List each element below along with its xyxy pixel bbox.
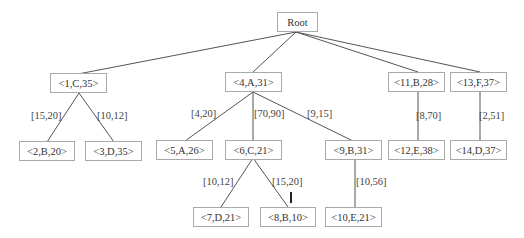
node-label: <1,C,35>	[59, 78, 99, 89]
edge-label-6-8: [15,20]	[272, 176, 303, 188]
tree-node-7: <7,D,21>	[193, 207, 249, 227]
node-label: <2,B,20>	[27, 146, 67, 157]
node-label: <10,E,21>	[331, 212, 376, 223]
tree-node-3: <3,D,35>	[85, 141, 142, 161]
tree-node-root: Root	[277, 12, 318, 32]
tree-node-9: <9,B,31>	[325, 140, 382, 160]
edge-label-4-5: [4,20]	[191, 108, 216, 120]
tree-node-2: <2,B,20>	[19, 141, 75, 161]
tree-node-5: <5,A,26>	[156, 140, 213, 160]
tree-node-12: <12,E,38>	[388, 140, 445, 160]
tree-node-10: <10,E,21>	[325, 207, 382, 227]
edge-label-1-2: [15,20]	[31, 110, 62, 122]
node-label: <11,B,28>	[394, 77, 439, 88]
node-label: <6,C,21>	[234, 145, 274, 156]
node-label: Root	[287, 17, 307, 28]
tree-node-8: <8,B,10>	[260, 207, 316, 227]
edge-label-11-12: [8,70]	[416, 110, 441, 122]
edge-label-13-14: [2,51]	[479, 110, 504, 122]
node-label: <5,A,26>	[164, 145, 204, 156]
node-label: <8,B,10>	[268, 212, 308, 223]
tree-node-14: <14,D,37>	[450, 140, 507, 160]
node-label: <3,D,35>	[93, 146, 133, 157]
edge-label-4-6: [70,90]	[254, 108, 285, 120]
tree-node-11: <11,B,28>	[388, 72, 445, 92]
text-cursor-icon	[290, 192, 292, 203]
node-label: <13,F,37>	[457, 77, 500, 88]
tree-node-1: <1,C,35>	[50, 73, 107, 93]
node-label: <4,A,31>	[233, 77, 273, 88]
tree-node-6: <6,C,21>	[225, 140, 282, 160]
tree-node-13: <13,F,37>	[450, 72, 507, 92]
node-label: <12,E,38>	[394, 145, 439, 156]
edge-label-4-9: [9,15]	[307, 108, 332, 120]
edge-label-1-3: [10,12]	[97, 110, 128, 122]
node-label: <9,B,31>	[334, 145, 374, 156]
edge-label-6-7: [10,12]	[203, 176, 234, 188]
node-label: <14,D,37>	[456, 145, 502, 156]
tree-diagram: Root <1,C,35> <4,A,31> <11,B,28> <13,F,3…	[0, 0, 524, 238]
node-label: <7,D,21>	[201, 212, 241, 223]
tree-node-4: <4,A,31>	[225, 72, 282, 92]
edge-label-9-10: [10,56]	[356, 176, 387, 188]
